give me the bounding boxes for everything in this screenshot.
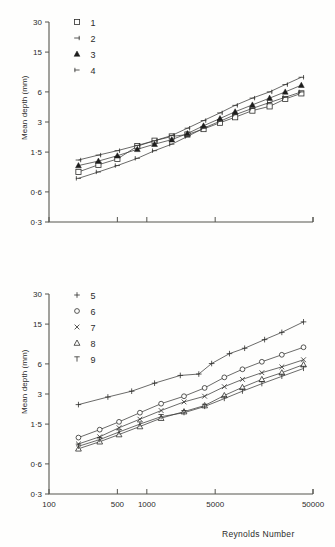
series-line-2: [78, 77, 301, 160]
y-tick-label: 15: [33, 320, 42, 329]
data-point-1: [76, 169, 81, 174]
y-tick-label: 6: [38, 88, 43, 97]
x-tick-label: 1000: [138, 500, 156, 509]
data-point-5: [129, 388, 135, 394]
y-axis-title-top: Mean depth (mm): [20, 75, 29, 140]
x-tick-label: 5000: [206, 500, 224, 509]
data-point-7: [222, 384, 227, 389]
data-point-2: [299, 75, 305, 79]
data-point-2: [217, 111, 223, 115]
legend-marker-open-triangle-icon: [74, 340, 80, 345]
y-tick-label: 0·6: [30, 460, 42, 469]
y-tick-label: 6: [38, 360, 43, 369]
data-point-4: [169, 142, 174, 146]
axes-group: 3015631·50·60·3: [30, 18, 313, 227]
legend-marker-left-tick-icon: [74, 36, 80, 40]
y-tick-label: 0·3: [30, 218, 42, 227]
data-point-4: [76, 176, 81, 180]
series-line-9: [78, 368, 303, 446]
data-point-4: [135, 156, 140, 160]
data-point-4: [152, 148, 157, 152]
data-point-2: [185, 126, 191, 130]
data-point-6: [222, 375, 227, 380]
y-axis-title-bottom: Mean depth (mm): [20, 349, 29, 414]
y-tick-label: 1·5: [30, 420, 42, 429]
plot-area-bottom: 3015631·50·60·3100500100050005000056789: [0, 272, 335, 547]
legend-item-6[interactable]: 6: [75, 307, 96, 317]
legend-marker-tee-icon: [74, 357, 79, 362]
data-point-5: [178, 373, 184, 379]
data-point-2: [282, 82, 288, 86]
data-point-7: [182, 400, 187, 405]
legend-marker-open-square-icon: [74, 19, 79, 24]
legend-label-2: 2: [90, 34, 95, 44]
legend-label-1: 1: [90, 18, 95, 28]
data-point-5: [76, 402, 82, 408]
series-8: [76, 362, 307, 451]
data-point-6: [97, 427, 102, 432]
y-tick-label: 30: [33, 18, 42, 27]
series-9: [76, 366, 306, 449]
legend-marker-filled-triangle-icon: [74, 51, 80, 56]
data-point-2: [76, 158, 82, 162]
legend: 56789: [74, 291, 95, 365]
legend-item-8[interactable]: 8: [74, 339, 95, 349]
chart-panel-top: 3015631·50·60·31234 Mean depth (mm): [0, 0, 335, 272]
data-point-6: [240, 367, 245, 372]
data-point-2: [267, 90, 273, 94]
series-5: [76, 319, 307, 407]
x-axis-title: Reynolds Number: [222, 529, 295, 539]
legend-item-7[interactable]: 7: [75, 323, 96, 333]
data-point-5: [301, 319, 307, 325]
data-point-5: [152, 380, 158, 386]
legend-item-4[interactable]: 4: [74, 66, 95, 76]
legend-item-2[interactable]: 2: [74, 34, 95, 44]
data-point-6: [159, 401, 164, 406]
legend-item-3[interactable]: 3: [74, 50, 95, 60]
series-4: [76, 90, 304, 181]
legend-label-6: 6: [90, 307, 95, 317]
data-point-6: [301, 345, 306, 350]
data-point-6: [138, 410, 143, 415]
axes-group: 3015631·50·60·31005001000500050000: [30, 290, 324, 509]
data-point-3: [298, 82, 304, 87]
data-point-3: [267, 95, 273, 100]
series-7: [76, 357, 306, 446]
series-group: [76, 75, 305, 180]
data-point-7: [202, 394, 207, 399]
legend-marker-plus-tick-icon: [74, 68, 79, 72]
legend-item-5[interactable]: 5: [74, 291, 95, 301]
legend: 1234: [74, 18, 95, 76]
data-point-9: [259, 382, 264, 387]
series-3: [76, 82, 305, 168]
y-tick-label: 3: [38, 390, 43, 399]
axis-spines: [49, 22, 313, 222]
legend-item-1[interactable]: 1: [74, 18, 95, 28]
legend-label-5: 5: [90, 291, 95, 301]
series-line-8: [78, 365, 303, 449]
y-tick-label: 0·3: [30, 490, 42, 499]
legend-marker-plus-icon: [74, 292, 80, 298]
data-point-5: [105, 394, 111, 400]
data-point-5: [227, 351, 233, 357]
y-tick-label: 30: [33, 290, 42, 299]
x-tick-label: 100: [42, 500, 56, 509]
series-line-6: [78, 347, 303, 437]
legend-label-9: 9: [90, 355, 95, 365]
data-point-7: [240, 377, 245, 382]
data-point-2: [201, 118, 207, 122]
data-point-5: [279, 330, 285, 336]
data-point-4: [96, 170, 101, 174]
data-point-2: [96, 153, 102, 157]
data-point-3: [282, 89, 288, 94]
data-point-6: [117, 419, 122, 424]
legend-label-4: 4: [90, 66, 95, 76]
data-point-7: [138, 417, 143, 422]
data-point-5: [262, 337, 268, 343]
series-line-5: [78, 322, 303, 405]
data-point-6: [76, 435, 81, 440]
legend-item-9[interactable]: 9: [74, 355, 95, 365]
data-point-6: [259, 359, 264, 364]
data-point-7: [159, 408, 164, 413]
legend-marker-open-circle-icon: [75, 309, 80, 314]
